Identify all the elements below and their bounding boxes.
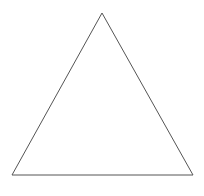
diagram-canvas (0, 0, 204, 196)
triangle-outline (12, 13, 193, 175)
triangle-diagram (0, 0, 204, 196)
